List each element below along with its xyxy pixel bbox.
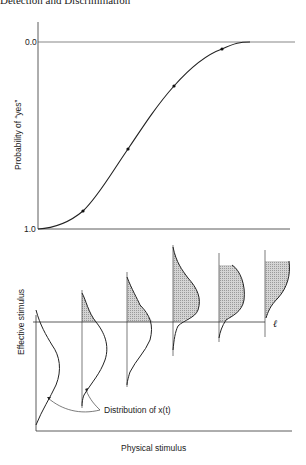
x-axis-label: Physical stimulus bbox=[121, 443, 186, 453]
y-axis-label: Probability of “yes” bbox=[13, 99, 23, 170]
figure: 0.0 1.0 Probability of “yes” ℓ bbox=[0, 0, 306, 465]
shaded-area-5 bbox=[219, 265, 244, 322]
ytick-bottom: 1.0 bbox=[24, 224, 36, 234]
annotation-leader-2 bbox=[86, 390, 100, 410]
distribution-curve-1 bbox=[36, 310, 59, 425]
shaded-area-4 bbox=[173, 247, 199, 322]
effective-stimulus-diagram: ℓ Distribution of x(t) Effective stimulu… bbox=[16, 245, 292, 453]
y-axis-label: Effective stimulus bbox=[16, 289, 26, 355]
threshold-label: ℓ bbox=[273, 318, 277, 329]
data-point bbox=[172, 84, 175, 87]
shaded-area-3 bbox=[127, 277, 153, 322]
data-point bbox=[81, 209, 84, 212]
data-point bbox=[126, 147, 129, 150]
annotation-leader-1 bbox=[48, 398, 100, 412]
psychometric-chart: 0.0 1.0 Probability of “yes” bbox=[13, 22, 295, 234]
shaded-area-6 bbox=[265, 261, 290, 318]
psychometric-curve bbox=[38, 42, 250, 229]
data-point bbox=[220, 47, 223, 50]
distribution-annotation: Distribution of x(t) bbox=[104, 405, 171, 415]
ytick-top: 0.0 bbox=[25, 37, 37, 47]
